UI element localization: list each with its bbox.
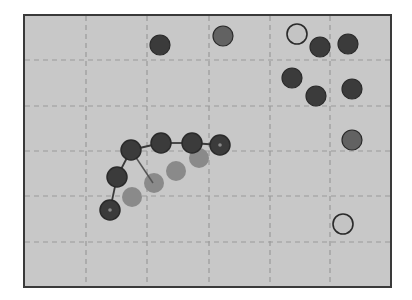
trail-piece [166, 161, 186, 181]
dark-piece[interactable] [342, 79, 362, 99]
dark-piece[interactable] [338, 34, 358, 54]
center-marker-icon [218, 143, 222, 147]
dark-piece[interactable] [150, 35, 170, 55]
chain-piece[interactable] [121, 140, 141, 160]
grid-lines [25, 16, 390, 286]
center-marker-icon [108, 208, 112, 212]
trail-piece [122, 187, 142, 207]
chain-piece[interactable] [182, 133, 202, 153]
chain-piece[interactable] [107, 167, 127, 187]
light-piece[interactable] [333, 214, 353, 234]
medium-piece[interactable] [342, 130, 362, 150]
board-pieces-layer [0, 0, 412, 300]
dark-piece[interactable] [306, 86, 326, 106]
medium-piece[interactable] [213, 26, 233, 46]
dark-piece[interactable] [310, 37, 330, 57]
dark-piece[interactable] [282, 68, 302, 88]
trail-piece [144, 173, 164, 193]
chain-pieces[interactable] [100, 133, 230, 220]
chain-piece[interactable] [151, 133, 171, 153]
light-piece[interactable] [287, 24, 307, 44]
